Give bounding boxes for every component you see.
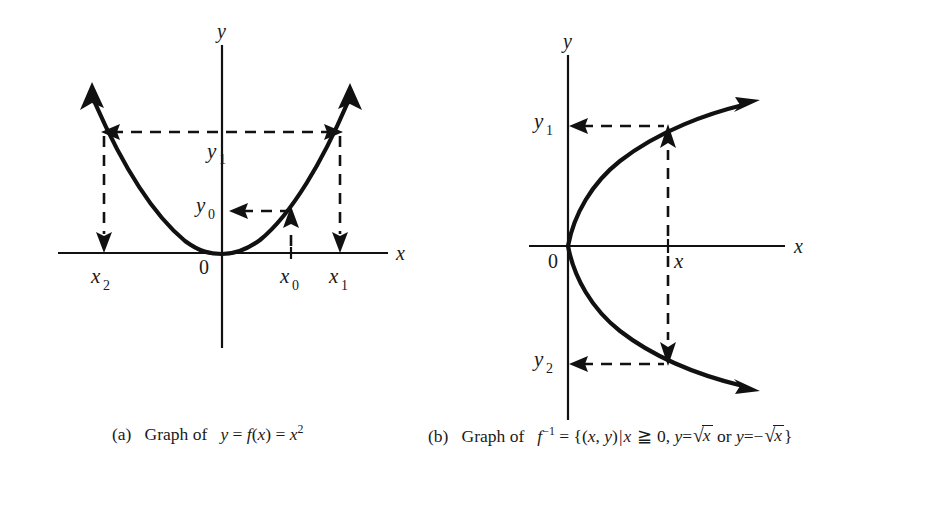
caption-row: (a) Graph of y = f(x) = x2 (b) Graph of … <box>0 425 940 465</box>
caption-b-pair-y: y <box>604 426 612 446</box>
panel-a-x2-label: x 2 <box>90 264 110 293</box>
panel-b-origin-label: 0 <box>548 250 558 272</box>
caption-a-index: (a) <box>112 424 131 444</box>
panel-a-y1-label-sub: 1 <box>219 152 226 167</box>
caption-a-lead: Graph of <box>145 424 208 444</box>
panel-a-x1-label-sub: 1 <box>341 278 348 293</box>
panel-b-x-label: x <box>673 249 684 273</box>
caption-b: (b) Graph of f−1 = {(x, y)|x ≧ 0, y=√x o… <box>428 425 792 447</box>
caption-b-var-y2: y <box>736 426 744 446</box>
caption-b-geq: ≧ <box>636 427 653 446</box>
caption-b-lead: Graph of <box>462 426 525 446</box>
caption-b-pair-comma: , <box>596 426 600 446</box>
panel-a-curve-right-arrowhead <box>338 83 362 110</box>
panel-b-y1-label-sub: 1 <box>546 123 553 138</box>
panel-b: x y 0 x y 1 <box>529 30 803 420</box>
panel-a-x0-label-base: x <box>279 264 290 288</box>
panel-a-x2-label-sub: 2 <box>103 278 110 293</box>
panel-a-x1-label-base: x <box>328 264 339 288</box>
panel-a-x0-label: x 0 <box>279 264 299 293</box>
caption-b-sqrt-1: √x <box>692 425 713 447</box>
caption-b-brace-close: } <box>784 426 792 446</box>
caption-a-paren-close: ) <box>265 424 271 444</box>
caption-a: (a) Graph of y = f(x) = x2 <box>112 425 303 444</box>
caption-b-minus: − <box>754 426 764 446</box>
caption-b-brace-open: { <box>574 426 582 446</box>
panel-b-y1-label: y 1 <box>532 109 553 138</box>
caption-a-eq1: = <box>233 424 243 444</box>
caption-a-base-x: x <box>290 424 298 444</box>
panel-b-x-axis-label: x <box>793 235 803 257</box>
caption-b-eq2: = <box>682 426 692 446</box>
panel-a-y0-label: y 0 <box>194 193 215 222</box>
panel-a-origin-label: 0 <box>199 256 209 278</box>
panel-a-x0-up-arrowhead <box>283 206 299 228</box>
caption-b-radicand-1: x <box>702 425 713 445</box>
panel-a-x2-down-arrowhead <box>96 232 112 253</box>
caption-b-pair-close: ) <box>612 426 618 446</box>
panel-a-x2-label-base: x <box>90 264 101 288</box>
caption-a-var-y: y <box>220 424 228 444</box>
caption-b-eq1: = <box>559 426 569 446</box>
panel-a-y-axis-label: y <box>215 20 226 43</box>
caption-b-or-word: or <box>717 426 732 446</box>
panel-a-x0-label-sub: 0 <box>292 278 299 293</box>
panel-a-curve-left-arrowhead <box>80 82 104 110</box>
caption-b-sqrt-2: √x <box>763 425 784 447</box>
caption-b-cond-x: x <box>623 426 631 446</box>
panel-b-y2-label-base: y <box>532 347 544 371</box>
panel-a-x-axis-label: x <box>395 242 405 264</box>
panel-a-x1-label: x 1 <box>328 264 348 293</box>
figure-root: x y 0 y 1 x 2 <box>0 0 940 505</box>
panel-b-y1-label-base: y <box>532 109 544 133</box>
caption-b-exponent: −1 <box>542 424 555 438</box>
panel-a-y1-label-base: y <box>205 139 217 163</box>
panel-a-y0-label-sub: 0 <box>208 207 215 222</box>
caption-b-radicand-2: x <box>773 425 784 445</box>
caption-b-pair-x: x <box>588 426 596 446</box>
panel-a-y0-label-base: y <box>194 193 206 217</box>
caption-b-eq3: = <box>744 426 754 446</box>
panel-b-y2-label: y 2 <box>532 347 553 376</box>
panel-a-x1-down-arrowhead <box>332 232 348 253</box>
caption-b-index: (b) <box>428 426 448 446</box>
caption-b-cond-zero: 0, <box>657 426 670 446</box>
caption-a-exponent: 2 <box>298 422 304 436</box>
caption-a-eq2: = <box>275 424 285 444</box>
panel-b-y-axis-label: y <box>561 30 572 53</box>
panel-b-y2-label-sub: 2 <box>546 361 553 376</box>
panel-a: x y 0 y 1 x 2 <box>58 20 405 348</box>
